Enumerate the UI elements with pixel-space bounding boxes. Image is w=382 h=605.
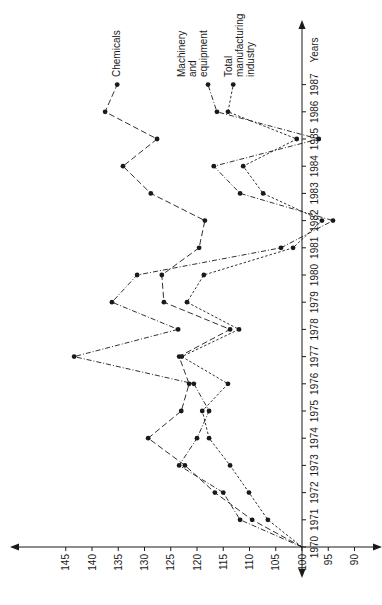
data-point: [177, 463, 182, 468]
data-point: [179, 409, 184, 414]
value-tick-label: 130: [139, 554, 150, 571]
data-point: [238, 191, 243, 196]
data-point: [228, 327, 233, 332]
series-line-machinery-and-equipment: [74, 85, 333, 547]
data-point: [241, 164, 246, 169]
series-label: manufacturing: [234, 14, 245, 77]
year-tick-label: 1980: [309, 263, 320, 286]
year-tick-label: 1971: [309, 508, 320, 531]
year-tick-label: 1986: [309, 100, 320, 123]
value-tick-label: 115: [218, 554, 229, 570]
data-point: [195, 436, 200, 441]
data-point: [197, 245, 202, 250]
year-tick-label: 1987: [309, 73, 320, 96]
series-line-total-manufacturing-industry: [182, 85, 322, 547]
data-point: [331, 218, 336, 223]
year-tick-label: 1977: [309, 345, 320, 368]
series-line-chemicals: [105, 85, 302, 547]
year-tick-label: 1970: [309, 535, 320, 558]
data-point: [148, 191, 153, 196]
value-tick-label: 140: [87, 554, 98, 571]
series-label: Total: [223, 56, 234, 77]
line-chart: 1451401351301251201151101051009590197019…: [0, 0, 382, 605]
data-point: [212, 490, 217, 495]
data-point: [237, 327, 242, 332]
data-point: [215, 109, 220, 114]
value-tick-label: 95: [323, 554, 334, 566]
data-point: [261, 191, 266, 196]
year-tick-label: 1975: [309, 399, 320, 422]
value-tick-label: 125: [165, 554, 176, 571]
year-tick-label: 1979: [309, 291, 320, 314]
data-point: [291, 245, 296, 250]
data-point: [238, 517, 243, 522]
series-label: Machinery: [176, 31, 187, 77]
year-tick-label: 1972: [309, 481, 320, 504]
data-point: [110, 300, 115, 305]
data-point: [115, 82, 120, 87]
data-point: [320, 218, 325, 223]
data-point: [162, 300, 167, 305]
series-labels: ChemicalsMachineryandequipmentTotalmanuf…: [111, 14, 256, 77]
value-axis-arrow-right-icon: [373, 544, 382, 551]
axes: 1451401351301251201151101051009590197019…: [10, 20, 382, 578]
data-point: [265, 517, 270, 522]
value-tick-label: 135: [113, 554, 124, 571]
value-tick-label: 100: [297, 554, 308, 571]
data-point: [201, 273, 206, 278]
data-point: [135, 273, 140, 278]
data-point: [294, 137, 299, 142]
series-label: and: [187, 60, 198, 77]
data-point: [247, 490, 252, 495]
year-tick-label: 1981: [309, 236, 320, 259]
data-point: [202, 218, 207, 223]
value-tick-label: 90: [349, 554, 360, 566]
data-point: [221, 490, 226, 495]
data-point: [206, 82, 211, 87]
year-tick-label: 1984: [309, 155, 320, 178]
value-tick-label: 105: [270, 554, 281, 571]
data-point: [155, 137, 160, 142]
series-label: industry: [245, 42, 256, 77]
year-axis-arrow-up-icon: [299, 20, 306, 29]
data-point: [183, 463, 188, 468]
value-tick-label: 110: [244, 554, 255, 570]
data-point: [250, 517, 255, 522]
data-point: [316, 137, 321, 142]
data-point: [176, 327, 181, 332]
year-tick-label: 1978: [309, 318, 320, 341]
year-tick-label: 1983: [309, 182, 320, 205]
data-point: [103, 109, 108, 114]
data-point: [231, 82, 236, 87]
data-point: [159, 273, 164, 278]
value-axis-arrow-left-icon: [10, 544, 19, 551]
data-point: [207, 409, 212, 414]
data-point: [228, 463, 233, 468]
year-tick-label: 1974: [309, 427, 320, 450]
data-point: [279, 245, 284, 250]
series-lines: [72, 82, 336, 547]
value-tick-label: 145: [60, 554, 71, 571]
data-point: [146, 436, 151, 441]
data-point: [185, 300, 190, 305]
year-tick-label: 1973: [309, 454, 320, 477]
data-point: [191, 381, 196, 386]
series-label: Chemicals: [111, 30, 122, 77]
data-point: [226, 381, 231, 386]
year-tick-label: 1976: [309, 372, 320, 395]
data-point: [200, 409, 205, 414]
value-tick-label: 120: [192, 554, 203, 571]
data-point: [72, 354, 77, 359]
year-axis-title: Years: [309, 37, 320, 62]
data-point: [226, 109, 231, 114]
data-point: [211, 164, 216, 169]
series-label: equipment: [198, 30, 209, 77]
data-point: [121, 164, 126, 169]
data-point: [179, 354, 184, 359]
data-point: [207, 436, 212, 441]
